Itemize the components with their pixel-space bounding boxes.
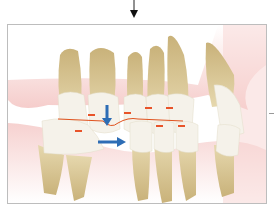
- pointer-arrow-icon: [0, 0, 274, 24]
- right-arrow-icon: [117, 137, 126, 147]
- side-tick: [269, 113, 274, 114]
- dental-illustration-frame: [7, 24, 267, 204]
- teeth-illustration: [8, 25, 266, 203]
